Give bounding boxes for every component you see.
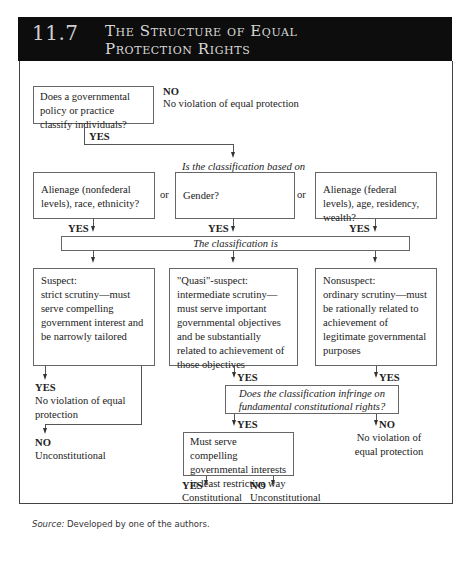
level-nonsuspect-box: Nonsuspect:ordinary scrutiny—must be rat… bbox=[315, 268, 437, 366]
level-suspect-box: Suspect:strict scrutiny—must serve compe… bbox=[33, 268, 155, 366]
or-label-1: or bbox=[160, 188, 169, 202]
suspect-yes-text: No violation of equal protection bbox=[35, 394, 130, 422]
fundamental-yes-label: YES bbox=[237, 418, 258, 432]
nonsuspect-yes-label: YES bbox=[379, 371, 400, 385]
q1-no-result: No violation of equal protection bbox=[163, 97, 299, 111]
q1-yes-label: YES bbox=[89, 130, 110, 144]
category-box-1: Alienage (nonfederal levels), race, ethn… bbox=[33, 172, 155, 219]
suspect-yes-label: YES bbox=[35, 381, 56, 395]
fundamental-no-label: NO bbox=[379, 418, 395, 432]
compelling-interest-box: Must serve compelling governmental inter… bbox=[183, 432, 294, 476]
compelling-yes-text: Constitutional bbox=[182, 491, 242, 505]
classification-is-bar: The classification is bbox=[61, 236, 410, 251]
figure-number: 11.7 bbox=[32, 21, 79, 45]
suspect-no-label: NO bbox=[35, 436, 51, 450]
figure-title: The Structure of Equal Protection Rights bbox=[105, 22, 297, 58]
category-box-2: Gender? bbox=[175, 172, 295, 219]
source-note: Source: Developed by one of the authors. bbox=[32, 519, 210, 529]
q1-box: Does a governmental policy or practice c… bbox=[33, 86, 154, 124]
or-label-2: or bbox=[297, 188, 306, 202]
compelling-no-text: Unconstitutional bbox=[250, 491, 321, 505]
category-box-3: Alienage (federal levels), age, residenc… bbox=[315, 172, 437, 219]
fundamental-rights-box: Does the classification infringe on fund… bbox=[225, 385, 399, 414]
level-quasi-box: "Quasi"-suspect:intermediate scrutiny—mu… bbox=[169, 268, 298, 366]
figure-header: 11.7 The Structure of Equal Protection R… bbox=[18, 17, 452, 61]
suspect-no-text: Unconstitutional bbox=[35, 449, 106, 463]
category-2-yes: YES bbox=[208, 222, 229, 236]
category-1-yes: YES bbox=[68, 222, 89, 236]
category-3-yes: YES bbox=[349, 222, 370, 236]
quasi-yes-label: YES bbox=[237, 371, 258, 385]
fundamental-no-text: No violation of equal protection bbox=[349, 431, 429, 459]
